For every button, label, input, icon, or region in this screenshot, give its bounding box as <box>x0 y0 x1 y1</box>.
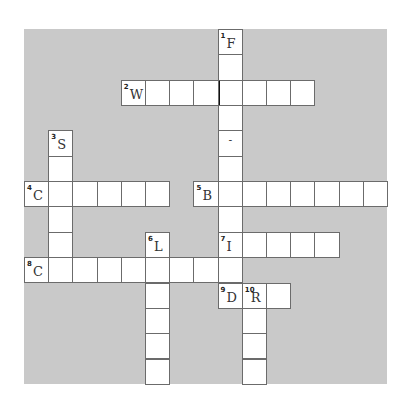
crossword-cell[interactable]: 8C <box>24 257 49 283</box>
crossword-cell[interactable] <box>242 359 267 385</box>
clue-number: 3 <box>51 133 56 141</box>
crossword-cell[interactable] <box>97 181 122 207</box>
crossword-cell[interactable]: 6L <box>145 232 170 258</box>
cell-letter: B <box>202 188 212 203</box>
cell-letter: D <box>227 290 237 305</box>
crossword-cell[interactable] <box>193 80 218 106</box>
crossword-cell[interactable] <box>145 257 170 283</box>
crossword-cell[interactable] <box>145 283 170 309</box>
crossword-cell[interactable] <box>121 181 146 207</box>
cell-letter: S <box>57 137 66 152</box>
clue-number: 4 <box>27 184 32 192</box>
crossword-cell[interactable]: 10R <box>242 283 267 309</box>
crossword-cell[interactable] <box>97 257 122 283</box>
crossword-cell[interactable] <box>218 156 243 182</box>
crossword-cell[interactable] <box>145 80 170 106</box>
clue-number: 5 <box>196 184 201 192</box>
crossword-cell[interactable]: 5B <box>193 181 218 207</box>
crossword-cell[interactable] <box>72 257 97 283</box>
crossword-cell[interactable] <box>48 257 73 283</box>
cell-letter: F <box>227 36 236 51</box>
crossword-cell[interactable]: 7I <box>218 232 243 258</box>
crossword-cell[interactable] <box>266 232 291 258</box>
crossword-cell[interactable]: - <box>218 130 243 156</box>
cell-letter: I <box>227 239 232 254</box>
crossword-cell[interactable] <box>266 80 291 106</box>
crossword-cell[interactable] <box>266 283 291 309</box>
crossword-cell[interactable] <box>314 181 339 207</box>
crossword-cell[interactable] <box>169 80 194 106</box>
crossword-cell[interactable] <box>314 232 339 258</box>
cell-letter: L <box>154 239 163 254</box>
crossword-cell[interactable]: 9D <box>218 283 243 309</box>
crossword-cell[interactable]: 3S <box>48 130 73 156</box>
crossword-cell[interactable] <box>266 181 291 207</box>
crossword-cell[interactable] <box>145 359 170 385</box>
crossword-cell[interactable] <box>193 257 218 283</box>
crossword-cell[interactable]: 2W <box>121 80 146 106</box>
crossword-cell[interactable] <box>145 181 170 207</box>
crossword-cell[interactable] <box>242 232 267 258</box>
cell-letter: - <box>229 134 233 147</box>
crossword-cell[interactable] <box>339 181 364 207</box>
crossword-cell[interactable] <box>145 333 170 359</box>
crossword-cell[interactable] <box>218 257 243 283</box>
crossword-cell[interactable] <box>145 308 170 334</box>
crossword-cell[interactable] <box>290 80 315 106</box>
crossword-cell[interactable] <box>48 206 73 232</box>
clue-number: 7 <box>221 235 226 243</box>
clue-number: 2 <box>124 83 129 91</box>
crossword-cell[interactable] <box>290 232 315 258</box>
crossword-cell[interactable] <box>242 333 267 359</box>
crossword-cell[interactable] <box>218 181 243 207</box>
cell-letter: C <box>33 264 43 279</box>
clue-number: 9 <box>221 286 226 294</box>
crossword-cell[interactable] <box>169 257 194 283</box>
crossword-cell[interactable]: 4C <box>24 181 49 207</box>
crossword-cell[interactable] <box>218 105 243 131</box>
crossword-cell[interactable] <box>121 257 146 283</box>
crossword-cell[interactable] <box>242 308 267 334</box>
cell-letter: W <box>130 87 143 102</box>
cell-letter: R <box>251 290 261 305</box>
crossword-cell[interactable] <box>218 54 243 80</box>
crossword-cell[interactable] <box>242 181 267 207</box>
crossword-cell[interactable] <box>290 181 315 207</box>
crossword-cell[interactable] <box>242 80 267 106</box>
clue-number: 1 <box>221 32 226 40</box>
cell-letter: C <box>33 188 43 203</box>
crossword-grid: 1F-7I9D2W3S4C5B6L8C10R <box>24 29 387 384</box>
crossword-cell[interactable] <box>72 181 97 207</box>
crossword-cell[interactable] <box>218 80 243 106</box>
clue-number: 6 <box>148 235 153 243</box>
clue-number: 8 <box>27 260 32 268</box>
crossword-cell[interactable] <box>48 232 73 258</box>
crossword-cell[interactable] <box>48 181 73 207</box>
crossword-cell[interactable] <box>218 206 243 232</box>
crossword-cell[interactable]: 1F <box>218 29 243 55</box>
crossword-cell[interactable] <box>363 181 388 207</box>
crossword-cell[interactable] <box>48 156 73 182</box>
